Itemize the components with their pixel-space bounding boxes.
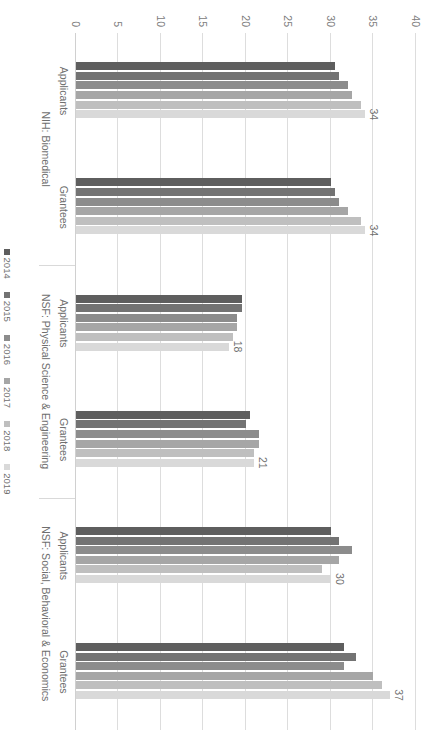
bar[interactable]: 34 [76,110,365,118]
bar-group: 21 [76,411,428,469]
legend-item[interactable]: 2015 [2,292,13,322]
bar[interactable] [76,565,323,573]
value-axis-tick-label: 25 [283,15,295,27]
bar-group: 18 [76,295,428,353]
category-label: Applicants [58,532,70,580]
legend-label: 2016 [2,344,13,365]
bar[interactable] [76,323,238,331]
bar-chart: 0510152025303540 343418213037 Applicants… [0,0,434,743]
bar[interactable] [76,178,331,186]
category-label: Applicants [58,299,70,347]
gridline [288,33,289,730]
legend-item[interactable]: 2017 [2,378,13,408]
value-axis-tick-label: 15 [198,15,210,27]
super-category-label: NIH: Biomedical [40,112,52,187]
legend-swatch-icon [5,249,11,255]
bar[interactable] [76,440,259,448]
bar[interactable] [76,411,250,419]
bar[interactable] [76,81,348,89]
bar[interactable] [76,681,382,689]
value-axis-line [75,33,76,730]
bar[interactable] [76,662,344,670]
bar[interactable] [76,333,233,341]
gridline [118,33,119,730]
category-label: Grantees [58,186,70,229]
gridline [415,33,416,730]
bar[interactable]: 30 [76,575,331,583]
legend-swatch-icon [5,421,11,427]
category-label: Grantees [58,418,70,461]
legend-item[interactable]: 2014 [2,249,13,279]
legend-item[interactable]: 2019 [2,464,13,494]
gridline [160,33,161,730]
bar[interactable] [76,556,340,564]
legend-label: 2019 [2,473,13,494]
gridline [245,33,246,730]
category-label: Applicants [58,67,70,115]
bar[interactable] [76,207,348,215]
legend-swatch-icon [5,292,11,298]
gridline [203,33,204,730]
bar-group: 30 [76,527,428,585]
bar-group: 34 [76,62,428,120]
bar[interactable] [76,527,331,535]
bar[interactable] [76,672,374,680]
plot-area: 0510152025303540 343418213037 Applicants… [76,33,428,730]
legend-swatch-icon [5,335,11,341]
bar[interactable] [76,546,352,554]
bar-data-label: 37 [394,689,406,701]
bar[interactable] [76,537,340,545]
gridline [373,33,374,730]
bar[interactable] [76,430,259,438]
bar[interactable] [76,217,361,225]
bar-group: 34 [76,178,428,236]
bar-data-label: 30 [334,573,346,585]
category-separator [39,498,75,499]
bar-data-label: 18 [232,341,244,353]
category-separator [39,265,75,266]
bar[interactable]: 18 [76,343,229,351]
bar[interactable]: 34 [76,226,365,234]
legend-label: 2017 [2,387,13,408]
bar-group: 37 [76,643,428,701]
value-axis-tick-label: 5 [113,21,125,27]
bar[interactable] [76,420,246,428]
bar[interactable] [76,314,238,322]
bar[interactable] [76,643,344,651]
category-label: Grantees [58,650,70,693]
bar[interactable]: 21 [76,459,255,467]
legend-swatch-icon [5,378,11,384]
bar[interactable] [76,62,335,70]
super-category-label: NSF: Social, Behavioral & Economics [40,526,52,701]
value-axis-tick-label: 0 [70,21,82,27]
legend-item[interactable]: 2018 [2,421,13,451]
bar-data-label: 34 [368,225,380,237]
value-axis-tick-label: 10 [155,15,167,27]
chart-legend: 201420152016201720182019 [2,0,13,743]
rotated-chart-host: 0510152025303540 343418213037 Applicants… [0,0,434,743]
value-axis-tick-label: 40 [410,15,422,27]
legend-label: 2014 [2,258,13,279]
bar[interactable] [76,188,335,196]
bar[interactable] [76,449,255,457]
bar[interactable] [76,304,242,312]
legend-swatch-icon [5,464,11,470]
legend-label: 2015 [2,301,13,322]
bar-data-label: 21 [258,457,270,469]
bar[interactable] [76,295,242,303]
value-axis-tick-label: 30 [325,15,337,27]
bar[interactable] [76,101,361,109]
super-category-label: NSF: Physical Science & Engineering [40,294,52,469]
bar[interactable]: 37 [76,691,391,699]
legend-label: 2018 [2,430,13,451]
value-axis-tick-label: 35 [368,15,380,27]
bar[interactable] [76,72,340,80]
gridline [330,33,331,730]
bar[interactable] [76,653,357,661]
bar[interactable] [76,198,340,206]
legend-item[interactable]: 2016 [2,335,13,365]
value-axis-tick-label: 20 [240,15,252,27]
bar[interactable] [76,91,352,99]
bar-data-label: 34 [368,108,380,120]
